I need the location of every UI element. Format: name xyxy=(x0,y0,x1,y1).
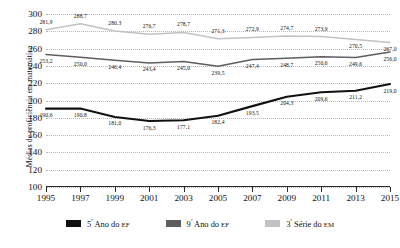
data-label: 182,4 xyxy=(211,119,224,125)
data-label: 177,1 xyxy=(177,124,190,130)
series-line xyxy=(46,52,390,66)
data-label: 276,7 xyxy=(143,23,156,29)
x-tick-label: 2015 xyxy=(381,193,399,203)
data-label: 278,7 xyxy=(177,21,190,27)
data-label: 280,3 xyxy=(108,20,121,26)
data-label: 267,0 xyxy=(383,46,396,52)
data-label: 256,0 xyxy=(383,56,396,62)
data-label: 253,2 xyxy=(39,58,52,64)
legend-swatch xyxy=(66,220,81,227)
x-tick-label: 2001 xyxy=(140,193,158,203)
data-label: 176,3 xyxy=(143,125,156,131)
x-tick xyxy=(287,187,288,192)
x-tick xyxy=(149,187,150,192)
data-label: 272,9 xyxy=(246,26,259,32)
y-tick-label: 200 xyxy=(28,96,42,106)
y-tick-label: 280 xyxy=(28,26,42,36)
legend-label: 9º Ano do EF xyxy=(187,218,230,229)
x-tick-label: 1995 xyxy=(37,193,55,203)
x-tick-label: 2011 xyxy=(312,193,330,203)
x-tick-label: 2009 xyxy=(278,193,296,203)
data-label: 246,4 xyxy=(108,64,121,70)
x-tick xyxy=(321,187,322,192)
x-tick xyxy=(80,187,81,192)
data-label: 181,0 xyxy=(108,120,121,126)
plot-area: 300280260240220200180160140120100 190,61… xyxy=(46,14,390,187)
x-tick xyxy=(252,187,253,192)
y-tick-label: 160 xyxy=(28,130,42,140)
legend-item[interactable]: 3ª Série do EM xyxy=(265,218,334,229)
legend-item[interactable]: 5º Ano do EF xyxy=(66,218,130,229)
data-label: 270,5 xyxy=(349,43,362,49)
x-tick-label: 2013 xyxy=(346,193,364,203)
data-label: 190,6 xyxy=(39,112,52,118)
data-label: 281,9 xyxy=(39,19,52,25)
x-tick xyxy=(46,187,47,192)
legend-swatch xyxy=(265,220,280,227)
x-tick-label: 1997 xyxy=(71,193,89,203)
data-label: 249,6 xyxy=(349,61,362,67)
data-label: 190,8 xyxy=(74,112,87,118)
data-label: 271,3 xyxy=(211,28,224,34)
x-tick-label: 1999 xyxy=(106,193,124,203)
legend-item[interactable]: 9º Ano do EF xyxy=(166,218,230,229)
x-tick xyxy=(115,187,116,192)
data-label: 219,0 xyxy=(383,88,396,94)
data-label: 243,4 xyxy=(143,66,156,72)
y-tick-label: 220 xyxy=(28,78,42,88)
data-label: 273,9 xyxy=(315,26,328,32)
data-label: 288,7 xyxy=(74,13,87,19)
x-tick xyxy=(218,187,219,192)
legend-label: 3ª Série do EM xyxy=(286,218,334,229)
legend-label: 5º Ano do EF xyxy=(87,218,130,229)
x-tick xyxy=(184,187,185,192)
y-tick-label: 140 xyxy=(28,147,42,157)
series-line xyxy=(46,84,390,121)
legend-swatch xyxy=(166,220,181,227)
chart-legend: 5º Ano do EF9º Ano do EF3ª Série do EM xyxy=(0,218,400,229)
x-tick-label: 2007 xyxy=(243,193,261,203)
data-label: 250,6 xyxy=(315,60,328,66)
data-label: 247,4 xyxy=(246,63,259,69)
data-label: 250,0 xyxy=(74,61,87,67)
data-label: 211,2 xyxy=(349,94,362,100)
x-tick xyxy=(390,187,391,192)
data-label: 209,6 xyxy=(315,96,328,102)
math-proficiency-line-chart: Médias de proficiência em matemática 300… xyxy=(0,0,400,248)
series-lines xyxy=(46,14,390,187)
y-tick-label: 260 xyxy=(28,44,42,54)
y-tick-label: 100 xyxy=(28,182,42,192)
data-label: 193,5 xyxy=(246,110,259,116)
y-tick-label: 300 xyxy=(28,9,42,19)
data-label: 245,0 xyxy=(177,65,190,71)
data-label: 274,7 xyxy=(280,25,293,31)
y-tick-label: 120 xyxy=(28,165,42,175)
data-label: 204,3 xyxy=(280,100,293,106)
x-tick-label: 2003 xyxy=(174,193,192,203)
data-label: 239,5 xyxy=(211,70,224,76)
x-tick-label: 2005 xyxy=(209,193,227,203)
data-label: 248,7 xyxy=(280,62,293,68)
x-tick xyxy=(356,187,357,192)
